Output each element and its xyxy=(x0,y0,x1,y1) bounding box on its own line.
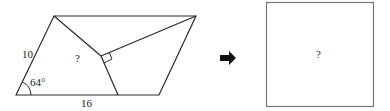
cut-line-bottom xyxy=(101,56,118,95)
angle-label: 64° xyxy=(30,76,45,88)
base-length-label: 16 xyxy=(81,97,93,109)
cut-line-top-left xyxy=(54,16,101,56)
cut-line-top-right xyxy=(101,16,196,56)
square-unknown-label: ? xyxy=(316,48,321,60)
right-arrow-icon xyxy=(220,51,236,65)
side-length-label: 10 xyxy=(22,48,34,60)
dissection-diagram: 10 64° 16 ? ? xyxy=(0,0,390,111)
unknown-region-label: ? xyxy=(75,52,80,64)
